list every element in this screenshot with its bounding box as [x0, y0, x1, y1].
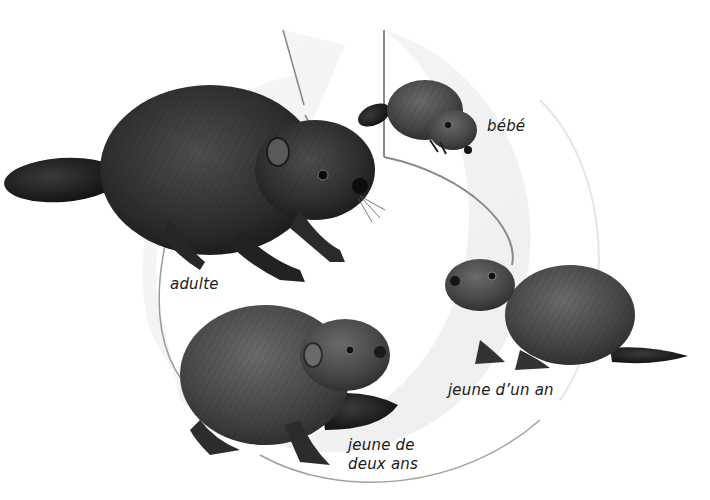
adult-ear [267, 138, 289, 166]
yearling-eye [488, 272, 496, 280]
baby-head [429, 110, 477, 150]
two-year-ear [304, 343, 322, 367]
stage-label-bebe: bébé [487, 117, 525, 136]
yearling-nose [450, 276, 460, 286]
beaver-adulte-illustration [3, 85, 385, 282]
two-year-nose [374, 346, 386, 358]
stage-label-adulte: adulte [170, 275, 219, 294]
stage-label-jeune-un-an: jeune d’un an [448, 381, 554, 400]
yearling-tail [610, 347, 688, 363]
two-year-eye [346, 346, 354, 354]
baby-eye [445, 122, 451, 128]
adult-eye [318, 170, 328, 180]
stage-label-jeune-deux-ans: jeune de deux ans [348, 436, 418, 474]
adult-nose [352, 178, 368, 194]
baby-nose [464, 146, 472, 154]
beaver-life-cycle-diagram [0, 0, 710, 500]
